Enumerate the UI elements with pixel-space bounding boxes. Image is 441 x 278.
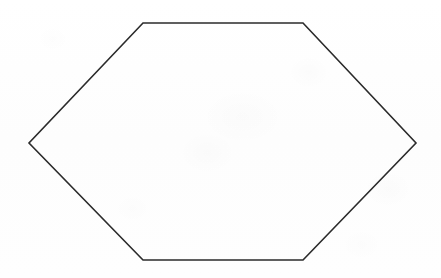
hexagon-outline xyxy=(29,23,416,260)
drawing-canvas xyxy=(0,0,441,278)
hexagon-figure xyxy=(0,0,441,278)
